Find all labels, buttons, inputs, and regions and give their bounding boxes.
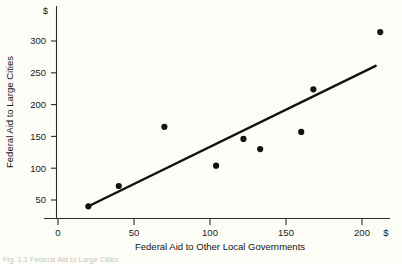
x-tick-label: 200 — [354, 227, 370, 238]
y-tick-label: 200 — [30, 99, 46, 110]
y-tick-label: 250 — [30, 67, 46, 78]
x-tick-label: 50 — [129, 227, 140, 238]
data-point — [213, 163, 219, 169]
chart-axes — [44, 6, 390, 219]
y-tick-label: 100 — [30, 163, 46, 174]
data-point — [257, 146, 263, 152]
y-tick-label: 50 — [35, 194, 46, 205]
data-point — [161, 124, 167, 130]
figure-caption: Fig. 1.1 Federal Aid to Large Cities — [3, 255, 118, 264]
y-tick-label: 300 — [30, 35, 46, 46]
data-point — [85, 203, 91, 209]
y-axis-ticks: 50100150200250300 — [30, 35, 57, 205]
y-axis-unit-symbol: $ — [43, 5, 49, 16]
regression-line — [87, 66, 376, 207]
x-axis-ticks: 050100150200 — [55, 219, 370, 238]
x-axis-title: Federal Aid to Other Local Governments — [135, 241, 305, 252]
data-point — [377, 29, 383, 35]
x-tick-label: 150 — [278, 227, 294, 238]
x-tick-label: 100 — [202, 227, 218, 238]
x-tick-label: 0 — [55, 227, 60, 238]
data-point — [116, 183, 122, 189]
data-point — [310, 86, 316, 92]
data-points — [85, 29, 383, 209]
data-point — [298, 129, 304, 135]
x-axis-unit-symbol: $ — [383, 227, 389, 238]
y-tick-label: 150 — [30, 131, 46, 142]
y-axis-title: Federal Aid to Large Cities — [4, 56, 15, 168]
data-point — [240, 136, 246, 142]
